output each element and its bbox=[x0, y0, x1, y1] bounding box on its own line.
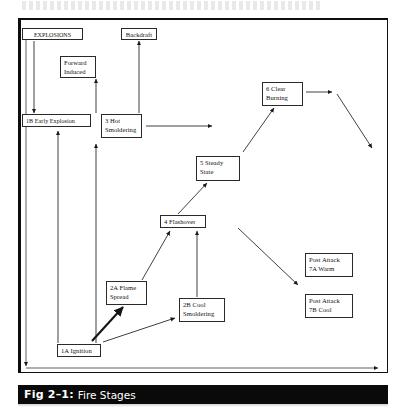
caption-shadow bbox=[18, 404, 388, 407]
edge-ignition-to-flame-spread bbox=[92, 307, 123, 341]
node-post-attack-warm[interactable]: Post Attack 7A Warm bbox=[305, 253, 353, 277]
edge-flame-spread-to-flashover bbox=[142, 231, 170, 280]
node-backdraft[interactable]: Backdraft bbox=[121, 28, 157, 40]
node-forward-induced[interactable]: Forward Induced bbox=[60, 56, 96, 78]
node-flame-spread[interactable]: 2A Flame Spread bbox=[106, 281, 147, 305]
node-steady-state[interactable]: 5 Steady State bbox=[196, 156, 240, 181]
edge-ignition-to-cool-smoldering bbox=[103, 318, 175, 342]
node-explosions[interactable]: EXPLOSIONS bbox=[22, 28, 83, 40]
node-ignition[interactable]: 1A Ignition bbox=[57, 344, 101, 357]
edge-flashover-to-post-attack-cool bbox=[238, 228, 298, 285]
edge-flashover-to-steady-state bbox=[178, 183, 207, 214]
node-flashover[interactable]: 4 Flashover bbox=[160, 215, 206, 228]
node-hot-smoldering[interactable]: 3 Hot Smoldering bbox=[101, 114, 142, 138]
node-clear-burning[interactable]: 6 Clear Burning bbox=[262, 82, 303, 106]
figure-page: EXPLOSIONS Backdraft Forward Induced 1B … bbox=[0, 0, 406, 419]
edge-clear-burning-to-post-attack-warm bbox=[337, 94, 372, 148]
figure-caption: Fig 2–1: Fire Stages bbox=[18, 385, 388, 404]
figure-number: Fig 2–1: bbox=[24, 388, 74, 401]
edge-steady-state-to-clear-burning bbox=[243, 108, 274, 152]
figure-title: Fire Stages bbox=[78, 389, 136, 401]
node-post-attack-cool[interactable]: Post Attack 7B Cool bbox=[305, 294, 353, 318]
node-cool-smoldering[interactable]: 2B Cool Smoldering bbox=[179, 298, 225, 322]
node-early-explosion[interactable]: 1B Early Explosion bbox=[22, 114, 91, 127]
